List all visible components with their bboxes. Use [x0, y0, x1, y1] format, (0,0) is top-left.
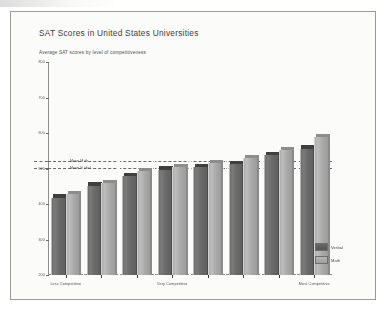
- bar-math: [243, 158, 257, 275]
- bar-top: [301, 145, 315, 148]
- legend-swatch: [315, 243, 328, 251]
- bar-top: [316, 134, 330, 137]
- bar-face: [229, 164, 243, 275]
- bar-verbal: [264, 155, 278, 275]
- bar-face: [101, 183, 115, 275]
- y-axis-tick-label: 300: [38, 238, 45, 242]
- x-axis-tick: [66, 275, 67, 278]
- reference-line-stub: [34, 168, 48, 169]
- bar-face: [66, 194, 80, 275]
- bar-top: [139, 168, 153, 171]
- bar-verbal: [229, 164, 243, 275]
- bar-verbal: [87, 186, 101, 275]
- bar-top: [245, 155, 259, 158]
- bar-face: [172, 167, 186, 275]
- bar-top: [68, 191, 82, 194]
- x-axis-tick: [172, 275, 173, 278]
- y-axis-tick-label: 700: [38, 96, 45, 100]
- chart-legend: VerbalMath: [315, 243, 365, 269]
- bar-top: [159, 166, 173, 169]
- bar-math: [66, 194, 80, 275]
- bar-verbal: [193, 167, 207, 275]
- bar-face: [122, 176, 136, 275]
- bar-top: [103, 180, 117, 183]
- bar-math: [172, 167, 186, 275]
- x-axis-tick: [314, 275, 315, 278]
- bar-top: [195, 164, 209, 167]
- y-axis-tick: [46, 204, 49, 205]
- bar-verbal: [122, 176, 136, 275]
- legend-item[interactable]: Math: [315, 256, 365, 264]
- reference-line-label: Mean Verbal: [70, 166, 91, 170]
- bar-face: [51, 198, 65, 275]
- group-gutter: [154, 62, 155, 275]
- group-gutter: [225, 62, 226, 275]
- bar-face: [243, 158, 257, 275]
- x-axis-tick: [208, 275, 209, 278]
- x-axis-tick: [243, 275, 244, 278]
- bar-face: [137, 171, 151, 275]
- y-axis-tick-label: 200: [38, 273, 45, 277]
- group-gutter: [118, 62, 119, 275]
- bar-face: [208, 163, 222, 275]
- bar-face: [279, 150, 293, 275]
- group-gutter: [189, 62, 190, 275]
- reference-line-label: Mean Math: [70, 159, 88, 163]
- bar-top: [266, 152, 280, 155]
- bar-verbal: [300, 149, 314, 275]
- bar-top: [124, 173, 138, 176]
- bar-top: [210, 160, 224, 163]
- y-axis-tick: [46, 62, 49, 63]
- x-axis-tick: [101, 275, 102, 278]
- y-axis-tick: [46, 240, 49, 241]
- x-axis-tick-label: Less Competitive: [50, 282, 81, 286]
- bar-math: [137, 171, 151, 275]
- bar-face: [87, 186, 101, 275]
- bar-top: [174, 164, 188, 167]
- reference-line-stub: [34, 161, 48, 162]
- y-axis-tick-label: 600: [38, 131, 45, 135]
- bar-top: [281, 147, 295, 150]
- x-axis-tick-label: Most Competitive: [299, 282, 330, 286]
- bar-face: [264, 155, 278, 275]
- bar-verbal: [51, 198, 65, 275]
- bar-math: [208, 163, 222, 275]
- group-gutter: [296, 62, 297, 275]
- legend-swatch: [315, 256, 328, 264]
- y-axis-tick: [46, 98, 49, 99]
- legend-label: Math: [331, 258, 341, 263]
- x-axis-tick: [279, 275, 280, 278]
- chart-page: SAT Scores in United States Universities…: [10, 11, 376, 300]
- bar-top: [53, 194, 67, 197]
- y-axis-tick-label: 400: [38, 202, 45, 206]
- group-gutter: [260, 62, 261, 275]
- bar-math: [101, 183, 115, 275]
- plot-area: 800700600500400300200 Less CompetitiveVe…: [48, 62, 332, 275]
- bar-top: [230, 161, 244, 164]
- x-axis-tick-label: Very Competitive: [157, 282, 187, 286]
- bar-math: [279, 150, 293, 275]
- chart-subtitle: Average SAT scores by level of competiti…: [39, 50, 146, 55]
- bar-face: [193, 167, 207, 275]
- legend-item[interactable]: Verbal: [315, 243, 365, 251]
- bar-face: [158, 170, 172, 275]
- bar-top: [88, 182, 102, 185]
- x-axis-tick: [137, 275, 138, 278]
- y-axis-tick: [46, 133, 49, 134]
- group-gutter: [83, 62, 84, 275]
- scan-artifact: [0, 0, 120, 7]
- bar-verbal: [158, 170, 172, 275]
- y-axis-tick: [46, 275, 49, 276]
- y-axis-tick-label: 800: [38, 60, 45, 64]
- chart-title: SAT Scores in United States Universities: [39, 28, 199, 38]
- bar-face: [300, 149, 314, 275]
- legend-label: Verbal: [331, 245, 343, 250]
